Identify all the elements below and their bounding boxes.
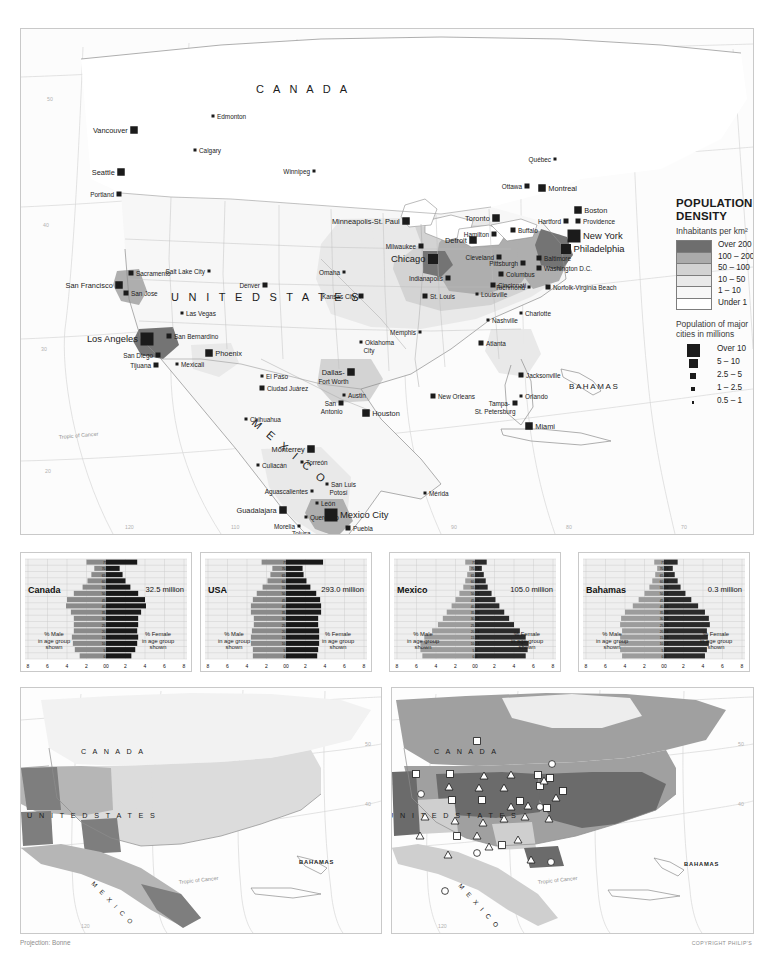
city-size-marker — [687, 344, 700, 357]
pyramid-age-label: 20-24 — [660, 630, 669, 634]
pyramid-bar-female — [286, 560, 323, 565]
pyramid-chart: 75+70-7465-6960-6455-5950-5445-4940-4435… — [201, 553, 371, 671]
city-marker — [359, 294, 364, 299]
city-marker — [257, 464, 260, 467]
city-marker — [574, 206, 582, 214]
pyramid-bar-female — [286, 616, 318, 621]
population-pyramid-bahamas[interactable]: 75+70-7465-6960-6455-5950-5445-4940-4435… — [578, 552, 750, 672]
city-marker — [528, 286, 531, 289]
city-marker — [492, 232, 497, 237]
pyramid-axis-tick: 4 — [624, 663, 627, 669]
pyramid-age-label: 55-59 — [282, 586, 291, 590]
pyramid-age-label: 0-4 — [473, 655, 478, 659]
city-marker — [245, 418, 248, 421]
marker-circle — [442, 888, 449, 895]
city-marker — [261, 375, 264, 378]
city-marker — [117, 192, 122, 197]
pyramid-bar-female — [286, 653, 317, 658]
city-marker — [181, 312, 184, 315]
city-label: Buffalo — [518, 227, 538, 234]
pyramid-bar-female — [286, 622, 318, 627]
pyramid-age-label: 70-74 — [102, 567, 111, 571]
city-size-marker — [689, 359, 698, 368]
city-size-marker — [691, 387, 696, 392]
marker-square — [560, 788, 567, 795]
pyramid-age-label: 40-44 — [471, 605, 480, 609]
pyramid-age-label: 40-44 — [282, 605, 291, 609]
city-marker — [141, 333, 154, 346]
city-label: Winnipeg — [283, 168, 310, 176]
pyramid-age-label: 35-39 — [282, 611, 291, 615]
population-change-map[interactable]: 40 50 120 C A N A — [20, 687, 382, 934]
city-marker — [167, 334, 172, 339]
pyramid-age-label: 45-49 — [102, 599, 111, 603]
pyramid-age-label: 10-14 — [282, 642, 291, 646]
city-marker — [568, 230, 581, 243]
city-label: Torreón — [306, 459, 328, 466]
city-marker — [561, 244, 571, 254]
city-label: San Luis — [331, 481, 356, 488]
projection-note: Projection: Bonne — [20, 939, 70, 946]
city-marker — [538, 184, 546, 192]
population-density-map[interactable]: 50 40 30 20 120 110 100 90 80 70 — [20, 28, 754, 535]
population-pyramid-usa[interactable]: 75+70-7465-6960-6455-5950-5445-4940-4435… — [200, 552, 372, 672]
svg-text:70: 70 — [681, 524, 687, 530]
population-pyramid-mexico[interactable]: 75+70-7465-6960-6455-5950-5445-4940-4435… — [389, 552, 561, 672]
pyramid-age-label: 35-39 — [471, 611, 480, 615]
density-swatch-label: 10 – 50 — [718, 275, 745, 284]
city-label: Louisville — [481, 291, 508, 298]
city-marker — [554, 158, 557, 161]
marker-square — [449, 797, 456, 804]
city-label: Salt Lake City — [166, 268, 206, 276]
pyramid-axis-tick: 4 — [144, 663, 147, 669]
pyramid-bar-male — [253, 653, 286, 658]
city-label: City — [364, 347, 376, 355]
wealth-map[interactable]: 40 50 120 C A N A D A — [391, 687, 754, 934]
city-size-label: 0.5 – 1 — [717, 396, 742, 405]
city-marker — [325, 509, 338, 522]
pyramid-country-name: USA — [208, 585, 227, 595]
pyramid-female-note-wrap: % Femalein age groupshown — [689, 631, 743, 651]
pyramid-bar-female — [106, 622, 138, 627]
pyramid-axis-tick: 4 — [513, 663, 516, 669]
city-label: Aguascalientes — [265, 488, 308, 496]
svg-text:20: 20 — [45, 468, 51, 474]
pyramid-age-label: 75+ — [103, 561, 109, 565]
city-label: Pittsburgh — [489, 260, 518, 268]
pyramid-bar-female — [475, 622, 514, 627]
pyramid-bar-female — [286, 591, 316, 596]
pyramid-bar-female — [106, 591, 138, 596]
pyramid-age-label: 20-24 — [471, 630, 480, 634]
pyramid-male-note-wrap: % Malein age groupshown — [27, 631, 81, 651]
city-label: Cincinnati — [498, 282, 526, 289]
pyramid-country-name: Bahamas — [586, 585, 626, 595]
svg-text:C A N A D A: C A N A D A — [81, 747, 145, 756]
pyramid-bar-male — [621, 616, 664, 621]
pyramid-age-label: 65-69 — [282, 574, 291, 578]
city-label: Sacramento — [136, 270, 171, 277]
city-marker — [311, 490, 314, 493]
pyramid-bar-female — [286, 603, 321, 608]
city-marker — [205, 349, 213, 357]
city-marker — [301, 461, 304, 464]
city-label: Minneapolis-St. Paul — [332, 217, 400, 226]
pyramid-female-note-wrap: % Femalein age groupshown — [131, 631, 185, 651]
city-label: Antonio — [321, 408, 343, 415]
pyramid-axis-tick: 8 — [552, 663, 555, 669]
pyramid-male-note-wrap: % Malein age groupshown — [585, 631, 639, 651]
pyramid-bar-female — [664, 616, 709, 621]
density-swatch: 50 – 100 — [677, 264, 711, 276]
pyramid-age-label: 0-4 — [662, 655, 667, 659]
pyramid-bar-female — [106, 603, 146, 608]
city-marker — [115, 281, 123, 289]
pyramid-female-note: % Femalein age groupshown — [142, 631, 174, 650]
pyramid-bar-female — [475, 616, 509, 621]
pyramid-bar-male — [80, 653, 106, 658]
city-marker — [130, 126, 138, 134]
city-size-label: 5 – 10 — [717, 357, 740, 366]
pyramid-age-label: 5-9 — [284, 649, 289, 653]
population-pyramid-canada[interactable]: 75+70-7465-6960-6455-5950-5445-4940-4435… — [20, 552, 192, 672]
pyramid-age-label: 50-54 — [282, 592, 291, 596]
city-label: Oklahoma — [365, 339, 395, 346]
city-label: Omaha — [319, 269, 340, 276]
